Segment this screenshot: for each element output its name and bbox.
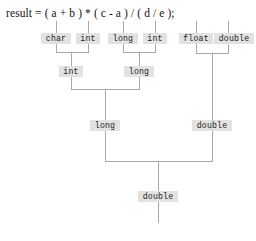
type-box-double-e: double: [214, 33, 254, 44]
merge-to-long-mul: [105, 89, 106, 120]
drop-int-a: [155, 44, 156, 52]
drop-long-sub: [139, 77, 140, 89]
type-box-char: char: [41, 33, 71, 44]
expression-line: result = ( a + b ) * ( c - a ) / ( d / e…: [6, 5, 250, 21]
join-long-double: [105, 161, 213, 162]
type-box-double-result: double: [138, 191, 178, 202]
type-promotion-diagram: result = ( a + b ) * ( c - a ) / ( d / e…: [0, 0, 256, 241]
type-box-long-c: long: [108, 33, 138, 44]
join-char-int: [56, 52, 89, 53]
type-box-int-b: int: [76, 33, 100, 44]
tail-below-result: [158, 202, 159, 223]
type-box-long-sub: long: [124, 66, 154, 77]
drop-double-div: [212, 131, 213, 161]
merge-to-long-sub: [139, 52, 140, 66]
drop-int-sum: [71, 77, 72, 89]
merge-to-double-result: [158, 161, 159, 191]
merge-to-int-sum: [71, 52, 72, 66]
drop-long-mul: [105, 131, 106, 161]
drop-char: [56, 44, 57, 52]
drop-float-d: [196, 44, 197, 53]
type-box-float-d: float: [179, 33, 213, 44]
type-box-double-div: double: [192, 120, 232, 131]
type-box-long-mul: long: [90, 120, 120, 131]
type-box-int-a: int: [143, 33, 167, 44]
drop-long-c: [123, 44, 124, 52]
merge-to-double-div: [212, 53, 213, 120]
drop-int-b: [88, 44, 89, 52]
drop-double-e: [228, 44, 229, 53]
type-box-int-sum: int: [59, 66, 83, 77]
